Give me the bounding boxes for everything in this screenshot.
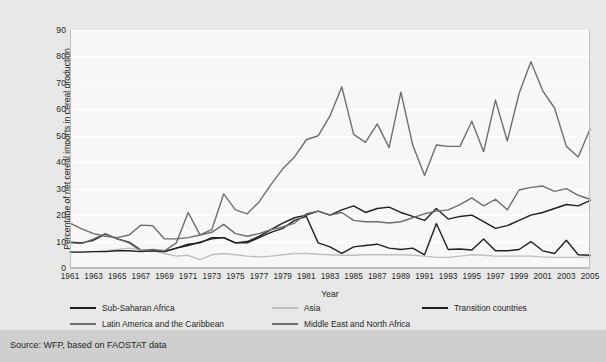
x-tick-label-1987: 1987 bbox=[368, 272, 387, 281]
series-line-3 bbox=[70, 186, 590, 239]
legend-item-1[interactable]: Asia bbox=[272, 303, 320, 313]
x-tick-label-1991: 1991 bbox=[415, 272, 434, 281]
x-tick-label-1985: 1985 bbox=[344, 272, 363, 281]
x-tick-label-1965: 1965 bbox=[108, 272, 127, 281]
legend-label-4: Middle East and North Africa bbox=[304, 319, 410, 329]
legend-swatch-icon-2 bbox=[422, 307, 448, 309]
source-bar: Source: WFP, based on FAOSTAT data bbox=[0, 330, 606, 362]
y-axis-line bbox=[70, 30, 71, 268]
x-tick-label-1975: 1975 bbox=[226, 272, 245, 281]
x-tick-label-2005: 2005 bbox=[581, 272, 600, 281]
figure-panel: 0102030405060708090 Percentage of net ce… bbox=[8, 8, 598, 325]
x-tick-label-1963: 1963 bbox=[84, 272, 103, 281]
x-tick-label-1999: 1999 bbox=[510, 272, 529, 281]
legend-label-2: Transition countries bbox=[454, 303, 527, 313]
x-tick-label-1971: 1971 bbox=[179, 272, 198, 281]
legend-swatch-icon-3 bbox=[70, 323, 96, 325]
x-tick-label-1981: 1981 bbox=[297, 272, 316, 281]
x-tick-label-1993: 1993 bbox=[439, 272, 458, 281]
x-axis-ticks: 1961196319651967196919711973197519771979… bbox=[70, 272, 590, 286]
plot-right-border bbox=[589, 30, 590, 268]
x-tick-label-1983: 1983 bbox=[321, 272, 340, 281]
x-tick-label-1995: 1995 bbox=[463, 272, 482, 281]
legend-item-0[interactable]: Sub-Saharan Africa bbox=[70, 303, 175, 313]
x-tick-label-1977: 1977 bbox=[250, 272, 269, 281]
x-tick-label-1961: 1961 bbox=[61, 272, 80, 281]
x-tick-label-2001: 2001 bbox=[533, 272, 552, 281]
series-line-4 bbox=[70, 62, 590, 251]
series-lines bbox=[70, 30, 590, 268]
x-tick-label-1967: 1967 bbox=[132, 272, 151, 281]
legend-swatch-icon-0 bbox=[70, 307, 96, 309]
plot-area bbox=[70, 30, 590, 268]
gridline-0 bbox=[70, 268, 590, 269]
legend: Sub-Saharan AfricaAsiaTransition countri… bbox=[70, 303, 590, 333]
y-tick-label-90: 90 bbox=[44, 25, 66, 35]
x-tick-label-1997: 1997 bbox=[486, 272, 505, 281]
legend-swatch-icon-4 bbox=[272, 323, 298, 325]
legend-label-3: Latin America and the Caribbean bbox=[102, 319, 224, 329]
legend-swatch-icon-1 bbox=[272, 307, 298, 309]
source-caption: Source: WFP, based on FAOSTAT data bbox=[10, 340, 166, 350]
x-tick-label-1969: 1969 bbox=[155, 272, 174, 281]
x-tick-label-1989: 1989 bbox=[392, 272, 411, 281]
x-axis-line bbox=[70, 267, 590, 268]
legend-item-4[interactable]: Middle East and North Africa bbox=[272, 319, 410, 329]
chart-screenshot: 0102030405060708090 Percentage of net ce… bbox=[0, 0, 606, 362]
legend-label-1: Asia bbox=[304, 303, 320, 313]
x-tick-label-1979: 1979 bbox=[273, 272, 292, 281]
x-axis-title: Year bbox=[70, 289, 590, 299]
x-tick-label-1973: 1973 bbox=[203, 272, 222, 281]
x-tick-label-2003: 2003 bbox=[557, 272, 576, 281]
legend-label-0: Sub-Saharan Africa bbox=[102, 303, 175, 313]
legend-item-2[interactable]: Transition countries bbox=[422, 303, 527, 313]
legend-item-3[interactable]: Latin America and the Caribbean bbox=[70, 319, 224, 329]
